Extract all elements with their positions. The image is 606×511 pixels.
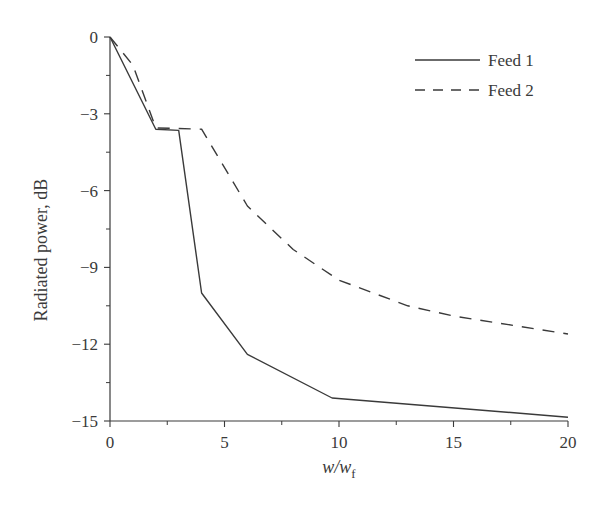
y-axis-title: Radiated power, dB (31, 179, 51, 322)
x-tick-label: 5 (220, 433, 229, 452)
y-tick-label: −3 (80, 105, 98, 124)
y-tick-label: 0 (90, 28, 99, 47)
x-axis-title-main: w/w (322, 457, 351, 477)
legend: Feed 1 Feed 2 (415, 51, 534, 100)
x-tick-label: 0 (106, 433, 115, 452)
y-tick-label: −9 (80, 258, 98, 277)
chart-canvas: 051015200−3−6−9−12−15 Feed 1 Feed 2 Radi… (0, 0, 606, 511)
legend-label-feed-1: Feed 1 (488, 51, 534, 70)
x-axis-title: w/wf (322, 457, 356, 481)
x-axis-title-subscript: f (351, 466, 356, 481)
x-tick-label: 15 (445, 433, 462, 452)
x-tick-label: 10 (331, 433, 348, 452)
legend-label-feed-2: Feed 2 (488, 81, 534, 100)
x-tick-label: 20 (560, 433, 577, 452)
y-tick-label: −6 (80, 182, 98, 201)
y-tick-label: −12 (71, 335, 98, 354)
y-tick-label: −15 (71, 412, 98, 431)
